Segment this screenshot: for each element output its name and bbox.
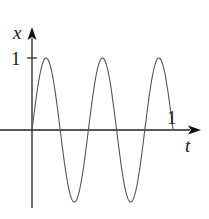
y-axis-label: x xyxy=(12,22,22,43)
x-axis-label: t xyxy=(185,135,191,156)
sine-chart: x 1 1 t xyxy=(0,0,209,219)
x-tick-label: 1 xyxy=(167,107,177,128)
y-tick-label: 1 xyxy=(11,48,21,69)
